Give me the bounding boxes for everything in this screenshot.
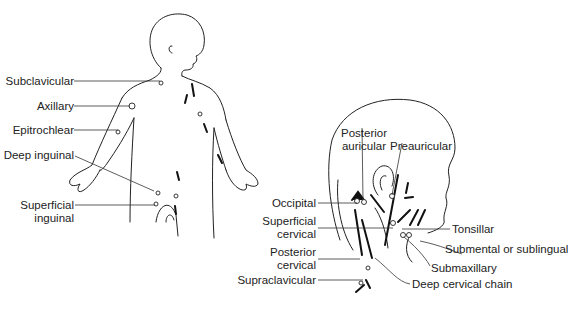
label-superficial-inguinal-line2: inguinal xyxy=(34,212,74,225)
label-posterior-auricular-line1: Posterior xyxy=(336,127,392,140)
label-posterior-cervical-line2: cervical xyxy=(277,259,316,272)
label-submaxillary: Submaxillary xyxy=(431,262,497,275)
leader-deep-cervical-chain xyxy=(375,258,410,284)
label-superficial-cervical-line1: Superficial xyxy=(262,215,316,228)
label-preauricular: Preauricular xyxy=(390,140,452,153)
label-occipital: Occipital xyxy=(272,197,316,210)
label-posterior-auricular-line2: auricular xyxy=(336,140,392,153)
child-body-figure xyxy=(70,14,258,238)
leader-deep-inguinal xyxy=(75,156,154,191)
label-supraclavicular: Supraclavicular xyxy=(237,274,316,287)
label-posterior-cervical-line1: Posterior xyxy=(270,246,316,259)
label-superficial-inguinal-line1: Superficial xyxy=(20,199,74,212)
label-deep-cervical-chain: Deep cervical chain xyxy=(412,278,512,291)
label-axillary: Axillary xyxy=(37,100,74,113)
label-superficial-cervical-line2: cervical xyxy=(277,228,316,241)
label-submental-or-sublingual: Submental or sublingual xyxy=(445,243,568,256)
label-tonsillar: Tonsillar xyxy=(452,223,494,236)
label-deep-inguinal: Deep inguinal xyxy=(4,149,74,162)
label-subclavicular: Subclavicular xyxy=(6,75,74,88)
label-epitrochlear: Epitrochlear xyxy=(13,124,74,137)
